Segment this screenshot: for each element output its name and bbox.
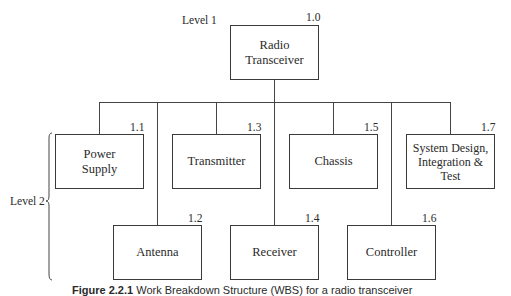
node-number-1-4: 1.4	[305, 212, 319, 224]
node-power-supply: Power Supply	[55, 134, 144, 189]
caption-prefix: Figure 2.2.1	[72, 284, 133, 296]
connector-1-2	[157, 102, 158, 225]
connector-1-6	[391, 102, 392, 225]
node-number-1-1: 1.1	[130, 121, 144, 133]
connector-1-5	[333, 102, 334, 134]
node-label: Radio Transceiver	[245, 38, 304, 68]
node-number-1-2: 1.2	[188, 212, 202, 224]
level-2-brace-icon	[44, 132, 54, 282]
node-chassis: Chassis	[289, 134, 378, 189]
connector-1-1	[99, 102, 100, 134]
connector-1-4	[274, 102, 275, 225]
node-label: Antenna	[136, 245, 178, 260]
node-label: Receiver	[252, 245, 296, 260]
node-number-1-6: 1.6	[422, 212, 436, 224]
node-label: System Design, Integration & Test	[413, 141, 488, 183]
bus-line	[99, 102, 451, 103]
node-label: Transmitter	[188, 154, 246, 169]
node-number-1-0: 1.0	[306, 11, 320, 23]
node-number-1-7: 1.7	[481, 121, 495, 133]
level-1-label: Level 1	[182, 14, 217, 26]
caption-text: Work Breakdown Structure (WBS) for a rad…	[133, 284, 412, 296]
node-number-1-3: 1.3	[247, 121, 261, 133]
connector-1-7	[450, 102, 451, 134]
node-label: Controller	[366, 245, 417, 260]
node-transmitter: Transmitter	[172, 134, 261, 189]
node-system-design: System Design, Integration & Test	[406, 134, 495, 189]
node-label: Power Supply	[82, 147, 117, 177]
node-controller: Controller	[347, 225, 436, 280]
node-antenna: Antenna	[113, 225, 202, 280]
level-2-label: Level 2	[10, 195, 45, 207]
node-number-1-5: 1.5	[364, 121, 378, 133]
node-receiver: Receiver	[230, 225, 319, 280]
figure-caption: Figure 2.2.1 Work Breakdown Structure (W…	[72, 284, 412, 296]
root-connector	[274, 80, 275, 102]
connector-1-3	[216, 102, 217, 134]
node-label: Chassis	[314, 154, 352, 169]
node-radio-transceiver: Radio Transceiver	[230, 25, 319, 80]
